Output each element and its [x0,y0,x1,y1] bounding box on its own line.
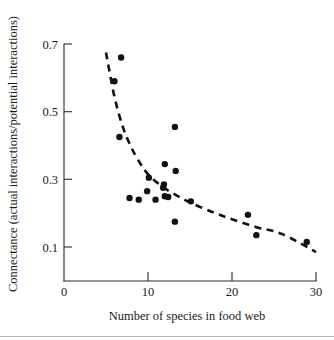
data-point [152,196,158,202]
data-point [253,232,259,238]
y-axis-ticks [64,44,72,247]
y-tick-label-0.3: 0.3 [42,173,58,187]
data-point [136,196,142,202]
data-points-group [111,54,310,245]
data-point [126,195,132,201]
y-tick-label-0.5: 0.5 [42,105,58,119]
x-tick-label-20: 20 [226,285,239,299]
data-point [245,212,251,218]
data-point [146,174,152,180]
data-point [118,54,124,60]
data-point [304,239,310,245]
x-axis-title: Number of species in food web [109,309,266,323]
data-point [172,218,178,224]
data-point [173,168,179,174]
data-point [160,185,166,191]
data-point [116,134,122,140]
y-tick-label-0.7: 0.7 [42,38,58,52]
y-tick-label-0.1: 0.1 [42,241,58,255]
trend-line-dashed [106,52,316,252]
x-tick-label-30: 30 [310,285,323,299]
data-point [165,194,171,200]
data-point [162,161,168,167]
data-point [172,124,178,130]
page-footer-rule [0,336,334,337]
figure-container: Connectance (actual interactions/potenti… [0,0,334,340]
y-axis-title: Connectance (actual interactions/potenti… [6,16,20,292]
x-axis-ticks [148,272,316,281]
x-axis-tick-labels: 0 10 20 30 [61,285,322,299]
data-point [111,78,117,84]
data-point [188,198,194,204]
x-tick-label-10: 10 [142,285,155,299]
scatter-plot: Connectance (actual interactions/potenti… [0,0,334,340]
y-axis-tick-labels: 0.7 0.5 0.3 0.1 [42,38,58,255]
data-point [144,188,150,194]
x-tick-label-0: 0 [61,285,67,299]
